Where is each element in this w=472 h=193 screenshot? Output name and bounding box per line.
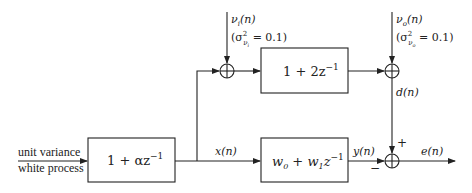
input-noise-label: νi(n) [231, 13, 256, 28]
input-noise-variance: (σ2νi = 0.1) [231, 30, 287, 48]
output-noise-variance: (σ2νo = 0.1) [396, 30, 454, 48]
plus-sign: + [397, 136, 407, 150]
diagram-canvas: unit variance white process 1 + αz−1 x(n… [0, 0, 472, 193]
shaping-filter-label: 1 + αz−1 [107, 151, 163, 168]
error-signal-label: e(n) [421, 145, 443, 158]
block-diagram: unit variance white process 1 + αz−1 x(n… [0, 0, 472, 193]
minus-sign: − [370, 161, 380, 175]
desired-signal-label: d(n) [396, 86, 419, 99]
output-noise-label: νo(n) [396, 13, 423, 28]
input-label-line1: unit variance [18, 145, 80, 159]
filter-output-label: y(n) [352, 145, 375, 158]
input-label-line2: white process [18, 161, 84, 175]
adaptive-filter-label: w0 + w1z−1 [272, 152, 344, 171]
unknown-system-label: 1 + 2z−1 [283, 62, 339, 79]
x-signal-label: x(n) [215, 145, 237, 158]
